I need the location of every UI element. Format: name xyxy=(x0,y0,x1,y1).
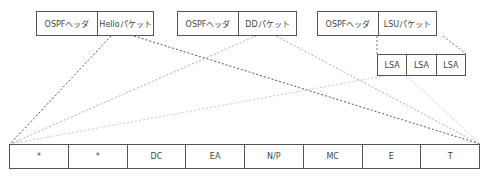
hello-line-left xyxy=(10,36,111,144)
lsu-packet-box: OSPFヘッダ LSUパケット xyxy=(317,11,437,36)
ospf-header-cell: OSPFヘッダ xyxy=(318,12,378,35)
options-bit-ea: EA xyxy=(185,145,244,168)
lsa-line-left xyxy=(10,75,389,144)
options-bit-np: N/P xyxy=(244,145,303,168)
lsa-line-right xyxy=(406,75,480,144)
options-bit-mc: MC xyxy=(303,145,362,168)
dd-packet-box: OSPFヘッダ DDパケット xyxy=(177,11,297,36)
options-bit-e: E xyxy=(362,145,421,168)
lsa-cell: LSA xyxy=(406,55,435,75)
ospf-header-cell: OSPFヘッダ xyxy=(37,12,97,35)
options-bit-reserved-2: * xyxy=(68,145,127,168)
options-bit-t: T xyxy=(420,145,479,168)
options-field: * * DC EA N/P MC E T xyxy=(9,144,480,169)
lsu-line-right xyxy=(443,36,466,54)
options-bit-dc: DC xyxy=(127,145,186,168)
dd-line-left xyxy=(10,36,256,144)
hello-packet-cell: Helloパケット xyxy=(97,12,153,35)
lsa-cell: LSA xyxy=(436,55,465,75)
lsa-cell: LSA xyxy=(378,55,406,75)
hello-packet-box: OSPFヘッダ Helloパケット xyxy=(36,11,154,36)
options-bit-reserved-1: * xyxy=(10,145,68,168)
lsa-box: LSA LSA LSA xyxy=(377,54,466,76)
dd-packet-cell: DDパケット xyxy=(238,12,296,35)
lsu-packet-cell: LSUパケット xyxy=(378,12,436,35)
ospf-header-cell: OSPFヘッダ xyxy=(178,12,238,35)
hello-line-right xyxy=(134,36,480,144)
